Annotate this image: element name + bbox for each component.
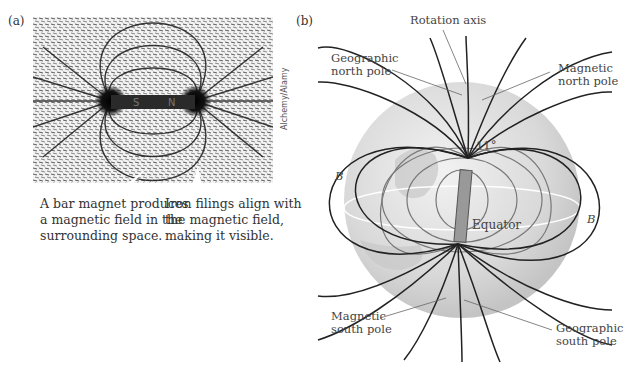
earth-field-diagram (0, 0, 624, 365)
field-vector-left: B (335, 170, 343, 183)
magnetic-north-label: Magnetic north pole (558, 62, 618, 88)
equator-label: Equator (472, 219, 521, 232)
magnetic-south-label: Magnetic south pole (331, 310, 392, 336)
field-vector-right: B (587, 213, 595, 226)
rotation-axis-label: Rotation axis (410, 14, 486, 27)
angle-label: 11° (476, 139, 496, 152)
geographic-south-label: Geographic south pole (556, 322, 624, 348)
geographic-north-label: Geographic north pole (331, 52, 399, 78)
